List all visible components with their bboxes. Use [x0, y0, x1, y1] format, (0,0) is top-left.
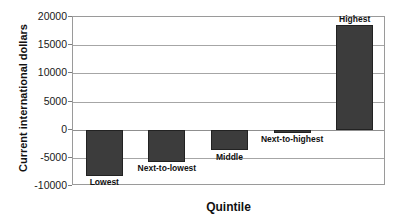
y-tick-mark [68, 16, 72, 17]
y-tick-mark [68, 157, 72, 158]
y-tick-label: 0 [15, 123, 67, 135]
bar-middle [211, 130, 248, 151]
y-tick-label: 20000 [15, 10, 67, 22]
y-tick-label: -5000 [15, 151, 67, 163]
bar-lowest [86, 130, 123, 176]
bar-highest [336, 25, 373, 129]
x-axis-title: Quintile [72, 200, 385, 214]
bar-label-lowest: Lowest [90, 177, 119, 187]
y-tick-mark [68, 72, 72, 73]
y-tick-mark [68, 185, 72, 186]
bar-label-middle: Middle [216, 152, 243, 162]
y-tick-label: 10000 [15, 66, 67, 78]
y-tick-mark [68, 101, 72, 102]
bar-label-highest: Highest [339, 14, 370, 24]
y-tick-label: -10000 [15, 179, 67, 191]
bar-next-to-lowest [148, 130, 185, 162]
y-tick-mark [68, 129, 72, 130]
plot-area: LowestNext-to-lowestMiddleNext-to-highes… [72, 16, 385, 185]
y-tick-label: 5000 [15, 95, 67, 107]
bar-chart: Current international dollars LowestNext… [0, 0, 395, 224]
bar-label-next-to-lowest: Next-to-lowest [138, 163, 197, 173]
plot-inner: LowestNext-to-lowestMiddleNext-to-highes… [73, 17, 384, 184]
bar-next-to-highest [274, 130, 311, 133]
y-tick-label: 15000 [15, 38, 67, 50]
y-tick-mark [68, 44, 72, 45]
bar-label-next-to-highest: Next-to-highest [261, 134, 323, 144]
